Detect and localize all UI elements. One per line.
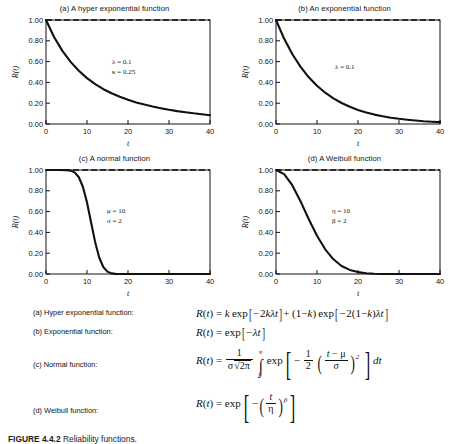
y-axis-label: R(t)	[241, 65, 250, 79]
y-axis-label: R(t)	[241, 215, 250, 229]
svg-text:0.00: 0.00	[259, 270, 273, 279]
y-axis-tick-labels: 1.00 0.80 0.60 0.40 0.20 0.00	[259, 16, 273, 129]
svg-text:0.80: 0.80	[259, 186, 273, 195]
svg-text:0: 0	[274, 127, 278, 136]
panel-b-annotation-0: λ = 0.1	[335, 63, 355, 73]
data-curve	[46, 170, 210, 274]
svg-text:0.60: 0.60	[259, 207, 273, 216]
svg-text:10: 10	[83, 277, 91, 286]
data-curve	[276, 20, 440, 122]
plot-frame	[276, 20, 440, 124]
svg-text:0.20: 0.20	[259, 99, 273, 108]
y-axis-ticks	[46, 20, 50, 124]
svg-text:0.40: 0.40	[29, 78, 43, 87]
panel-a-annotation-1: κ = 0.25	[112, 68, 135, 78]
svg-text:0.60: 0.60	[29, 57, 43, 66]
svg-text:0.80: 0.80	[29, 36, 43, 45]
figure-panels: (a) A hyper exponential function 1.00 0.…	[0, 0, 459, 300]
data-curve	[276, 170, 440, 274]
panel-d-annotations: η = 10 β = 2	[332, 207, 350, 226]
chart-panel-a: (a) A hyper exponential function 1.00 0.…	[0, 0, 229, 150]
svg-text:20: 20	[354, 277, 362, 286]
svg-text:0.40: 0.40	[259, 228, 273, 237]
y-axis-ticks	[46, 170, 50, 274]
y-axis-tick-labels: 1.00 0.80 0.60 0.40 0.20 0.00	[259, 166, 273, 279]
svg-text:0.20: 0.20	[29, 249, 43, 258]
y-axis-tick-labels: 1.00 0.80 0.60 0.40 0.20 0.00	[29, 166, 43, 279]
plot-frame	[46, 170, 210, 274]
svg-text:0.40: 0.40	[259, 78, 273, 87]
svg-text:20: 20	[124, 277, 132, 286]
y-axis-ticks	[276, 170, 280, 274]
x-axis-label: t	[127, 289, 130, 298]
panel-a-annotation-0: λ = 0.1	[112, 58, 135, 68]
panel-c-annotation-1: σ = 2	[107, 217, 125, 227]
chart-panel-c: (c) A normal function 1.00 0.80 0.60 0.4…	[0, 150, 229, 300]
svg-text:10: 10	[313, 277, 321, 286]
svg-text:0.80: 0.80	[29, 186, 43, 195]
panel-c-annotation-0: μ = 10	[107, 207, 125, 217]
svg-text:0.00: 0.00	[259, 120, 273, 129]
svg-text:0.60: 0.60	[259, 57, 273, 66]
equation-a-formula: R(t) = k exp[− 2kλt]+ (1−k) exp[− 2(1−k)…	[196, 306, 389, 323]
equation-list: (a) Hyper exponential function: R(t) = k…	[0, 300, 459, 428]
svg-text:0.00: 0.00	[29, 120, 43, 129]
svg-text:10: 10	[313, 127, 321, 136]
y-axis-ticks	[276, 20, 280, 124]
figure-caption: FIGURE 4.4.2 Reliability functions.	[8, 434, 458, 444]
equation-d-formula: R(t) = exp[−(tη)β]	[196, 392, 298, 415]
svg-text:30: 30	[395, 277, 403, 286]
x-axis-ticks	[46, 120, 210, 124]
svg-text:0: 0	[44, 127, 48, 136]
svg-text:0.20: 0.20	[29, 99, 43, 108]
x-axis-tick-labels: 0 10 20 30 40	[44, 127, 214, 136]
equation-c-label: (c) Normal function:	[33, 360, 97, 369]
svg-text:10: 10	[83, 127, 91, 136]
equation-c-formula: R(t) = 1σ √2π ∞∫t exp[− 12 (t − μσ)2 ]dt	[196, 348, 382, 372]
svg-text:0.80: 0.80	[259, 36, 273, 45]
x-axis-label: t	[127, 139, 130, 148]
svg-text:0.20: 0.20	[259, 249, 273, 258]
y-axis-label: R(t)	[11, 215, 20, 229]
x-axis-label: t	[357, 289, 360, 298]
svg-text:0.00: 0.00	[29, 270, 43, 279]
x-axis-tick-labels: 0 10 20 30 40	[44, 277, 214, 286]
x-axis-tick-labels: 0 10 20 30 40	[274, 127, 444, 136]
svg-text:30: 30	[395, 127, 403, 136]
svg-text:0.40: 0.40	[29, 228, 43, 237]
svg-text:40: 40	[206, 277, 214, 286]
panel-c-annotations: μ = 10 σ = 2	[107, 207, 125, 226]
svg-text:0: 0	[44, 277, 48, 286]
svg-text:1.00: 1.00	[259, 16, 273, 25]
equation-b-formula: R(t) = exp[− λt]	[196, 325, 266, 342]
svg-text:30: 30	[165, 277, 173, 286]
svg-text:1.00: 1.00	[29, 166, 43, 175]
svg-text:1.00: 1.00	[259, 166, 273, 175]
svg-text:20: 20	[354, 127, 362, 136]
y-axis-tick-labels: 1.00 0.80 0.60 0.40 0.20 0.00	[29, 16, 43, 129]
svg-text:30: 30	[165, 127, 173, 136]
panel-d-annotation-0: η = 10	[332, 207, 350, 217]
chart-panel-d: (d) A Weibull function 1.00 0.80 0.60 0.…	[230, 150, 459, 300]
equation-a-label: (a) Hyper exponential function:	[33, 308, 134, 317]
x-axis-label: t	[357, 139, 360, 148]
svg-text:40: 40	[436, 277, 444, 286]
svg-text:20: 20	[124, 127, 132, 136]
svg-text:0.60: 0.60	[29, 207, 43, 216]
equation-d-label: (d) Weibull function:	[33, 406, 98, 415]
panel-b-annotations: λ = 0.1	[335, 63, 355, 73]
svg-text:0: 0	[274, 277, 278, 286]
plot-frame	[276, 170, 440, 274]
y-axis-label: R(t)	[11, 65, 20, 79]
panel-d-annotation-1: β = 2	[332, 217, 350, 227]
svg-text:40: 40	[436, 127, 444, 136]
x-axis-tick-labels: 0 10 20 30 40	[274, 277, 444, 286]
svg-text:1.00: 1.00	[29, 16, 43, 25]
figure-caption-text: Reliability functions.	[63, 434, 137, 444]
panel-b-plot: 1.00 0.80 0.60 0.40 0.20 0.00 0 10 20 30…	[230, 0, 459, 150]
equation-b-label: (b) Exponential function:	[33, 327, 113, 336]
panel-a-annotations: λ = 0.1 κ = 0.25	[112, 58, 135, 77]
svg-text:40: 40	[206, 127, 214, 136]
figure-caption-prefix: FIGURE 4.4.2	[8, 434, 61, 444]
chart-panel-b: (b) An exponential function 1.00 0.80 0.…	[230, 0, 459, 150]
